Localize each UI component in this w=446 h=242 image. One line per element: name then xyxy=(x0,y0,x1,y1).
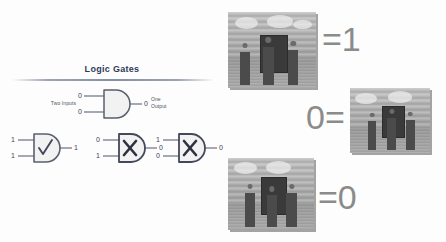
gate-demo-output: 0 xyxy=(144,100,148,107)
equation-middle: 0= xyxy=(306,100,345,134)
gate-true-input-top: 1 xyxy=(11,136,15,143)
photo-top-left xyxy=(228,12,316,88)
cloud-shape xyxy=(235,17,258,29)
equation-bottom: =0 xyxy=(318,180,357,214)
cloud-shape xyxy=(234,162,257,174)
title-divider xyxy=(12,79,214,81)
person-figure xyxy=(267,195,277,227)
equation-top: =1 xyxy=(322,22,361,56)
person-figure xyxy=(263,47,274,85)
person-figure xyxy=(240,52,250,85)
screenshot-canvas: Logic Gates 0 0 0 Two Inputs One Output xyxy=(0,0,446,242)
gate-false10-input-bottom: 0 xyxy=(156,152,160,159)
logic-gates-diagram: Logic Gates 0 0 0 Two Inputs One Output xyxy=(0,58,224,180)
and-gate-false-10: 1 0 0 xyxy=(155,130,227,166)
person-figure xyxy=(387,118,397,151)
and-gate-true: 1 1 1 xyxy=(10,130,82,166)
person-figure xyxy=(368,121,377,151)
gate-demo-input-top: 0 xyxy=(78,92,82,99)
two-inputs-label: Two Inputs xyxy=(34,100,76,107)
photo-top-left-content xyxy=(228,12,316,88)
gate-demo-input-bottom: 0 xyxy=(78,108,82,115)
photo-bottom-left xyxy=(228,158,314,230)
gate-false10-input-top: 1 xyxy=(156,136,160,143)
photo-middle-right-content xyxy=(350,88,430,153)
cloud-shape xyxy=(267,15,293,28)
photo-bottom-left-content xyxy=(228,158,314,230)
gate-false01-input-top: 0 xyxy=(96,136,100,143)
person-figure xyxy=(406,120,415,151)
and-gate-demo: 0 0 0 Two Inputs One Output xyxy=(62,86,154,122)
person-figure xyxy=(245,193,254,228)
cloud-shape xyxy=(355,93,377,104)
one-output-label-line2: Output xyxy=(151,103,167,110)
person-figure xyxy=(288,50,299,85)
one-output-label-line1: One xyxy=(151,96,161,103)
cloud-shape xyxy=(266,161,291,174)
page-title: Logic Gates xyxy=(0,64,224,74)
gate-false10-output: 0 xyxy=(219,144,223,151)
person-figure xyxy=(286,193,296,228)
and-gate-true-symbol xyxy=(10,130,82,166)
gate-true-output: 1 xyxy=(74,144,78,151)
photo-middle-right xyxy=(350,88,430,153)
and-gate-false-10-symbol xyxy=(155,130,227,166)
gate-true-input-bottom: 1 xyxy=(11,152,15,159)
gate-false01-input-bottom: 1 xyxy=(96,152,100,159)
